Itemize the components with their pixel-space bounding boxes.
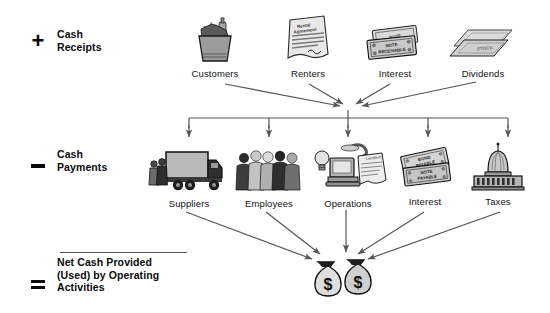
stock-certificate-icon: STOCK	[446, 24, 520, 66]
net-cash-label-line2: (Used) by Operating	[57, 269, 159, 282]
computer-operations-icon: Landlord	[311, 140, 385, 196]
node-interest-payments[interactable]: BOND PAYABLE NOTE PAYABLE Interest	[390, 146, 460, 207]
cash-receipts-label: Cash Receipts	[57, 28, 102, 53]
node-taxes-label: Taxes	[466, 196, 530, 207]
node-employees-label: Employees	[232, 198, 306, 209]
node-operations-label: Operations	[311, 198, 385, 209]
node-taxes[interactable]: Taxes	[466, 142, 530, 207]
note-receivable-icon: NOTE NOTE RECEIVABLE	[358, 22, 432, 66]
node-renters-label: Renters	[272, 68, 344, 79]
grocery-bag-icon	[180, 16, 250, 66]
node-renters[interactable]: Rental Agreement Renters	[272, 14, 344, 79]
cash-receipts-label-group: + Cash Receipts	[28, 28, 102, 53]
plus-sign: +	[28, 30, 48, 52]
node-customers[interactable]: Customers	[180, 16, 250, 79]
node-suppliers-label: Suppliers	[152, 198, 226, 209]
node-suppliers[interactable]: Suppliers	[152, 144, 226, 209]
node-dividends[interactable]: STOCK Dividends	[446, 24, 520, 79]
bond-payable-icon: BOND PAYABLE NOTE PAYABLE	[390, 146, 460, 194]
node-interest-receipts-label: Interest	[358, 68, 432, 79]
cash-receipts-label-line2: Receipts	[57, 41, 102, 54]
node-customers-label: Customers	[180, 68, 250, 79]
employees-group-icon	[232, 144, 306, 196]
node-interest-receipts[interactable]: NOTE NOTE RECEIVABLE Interest	[358, 22, 432, 79]
svg-text:$: $	[354, 274, 363, 291]
svg-text:$: $	[324, 276, 333, 293]
net-cash-label: Net Cash Provided (Used) by Operating Ac…	[57, 256, 159, 294]
cash-receipts-label-line1: Cash	[57, 28, 102, 41]
result-divider-rule	[60, 252, 187, 253]
delivery-truck-icon	[152, 144, 226, 196]
net-cash-label-group: Net Cash Provided (Used) by Operating Ac…	[28, 256, 159, 294]
net-cash-label-line1: Net Cash Provided	[57, 256, 159, 269]
equals-sign	[28, 256, 48, 287]
minus-sign	[28, 150, 48, 172]
net-cash-label-line3: Activities	[57, 281, 159, 294]
diagram-canvas: + Cash Receipts Customer	[0, 0, 550, 313]
node-operations[interactable]: Landlord Operations	[311, 140, 385, 209]
rental-agreement-icon: Rental Agreement	[272, 14, 344, 66]
node-net-cash-result[interactable]: $ $	[296, 252, 386, 304]
capitol-building-icon	[466, 142, 530, 194]
node-interest-payments-label: Interest	[390, 196, 460, 207]
node-dividends-label: Dividends	[446, 68, 520, 79]
cash-payments-label: Cash Payments	[57, 148, 107, 173]
money-bags-icon: $ $	[296, 252, 386, 304]
cash-payments-label-line2: Payments	[57, 161, 107, 174]
cash-payments-label-group: Cash Payments	[28, 148, 107, 173]
node-employees[interactable]: Employees	[232, 144, 306, 209]
cash-payments-label-line1: Cash	[57, 148, 107, 161]
